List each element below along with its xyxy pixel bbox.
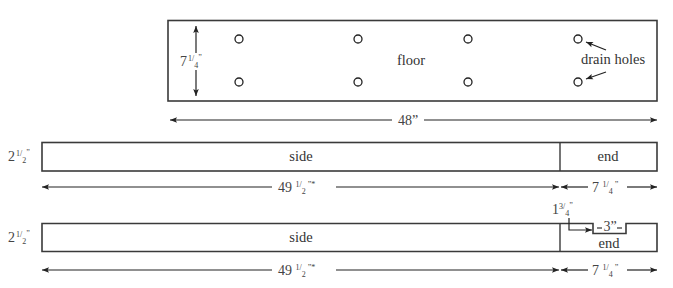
board-2-end-label: end xyxy=(599,235,621,251)
drain-holes-pointer-top xyxy=(586,42,606,50)
floor-length-label: 48” xyxy=(398,113,418,128)
drain-hole xyxy=(354,35,362,43)
board-2-side-length-label: 49 1/2 ”* xyxy=(278,263,315,279)
drain-hole xyxy=(464,35,472,43)
drain-hole xyxy=(574,78,582,86)
board-1-end-length-label: 7 1/4 ” xyxy=(592,180,619,196)
drain-hole xyxy=(235,35,243,43)
drain-hole xyxy=(464,78,472,86)
floor-height-label: 71/4” xyxy=(180,53,202,70)
board-2-outline xyxy=(42,224,657,252)
drain-holes-pointer-bottom xyxy=(586,72,606,79)
board-2-height-label: 21/2” xyxy=(8,229,30,246)
drain-hole xyxy=(354,78,362,86)
notch-width-label: 3” xyxy=(603,219,616,234)
board-2-end-length-label: 7 1/4 ” xyxy=(592,263,619,279)
notch-offset-label: 13/4” xyxy=(552,201,573,218)
board-1: 21/2” side end 49 1/2 ”* 7 1/4 ” xyxy=(8,143,657,197)
board-1-side-label: side xyxy=(289,148,312,164)
board-1-height-label: 21/2” xyxy=(8,148,30,165)
drain-holes-label: drain holes xyxy=(581,51,645,67)
drain-hole xyxy=(235,78,243,86)
board-1-side-length-label: 49 1/2 ”* xyxy=(278,180,315,196)
board-2-side-label: side xyxy=(289,229,312,245)
floor-panel: 71/4” floor drain holes 48” xyxy=(168,21,657,129)
cut-plan-diagram: 71/4” floor drain holes 48” 21/2” side xyxy=(0,0,673,288)
floor-label: floor xyxy=(397,52,425,68)
drain-hole xyxy=(574,35,582,43)
board-1-end-label: end xyxy=(598,148,620,164)
board-1-outline xyxy=(42,143,657,172)
board-2: 21/2” side end 13/4” 3” 49 1/2 ”* 7 1/4 … xyxy=(8,201,657,279)
